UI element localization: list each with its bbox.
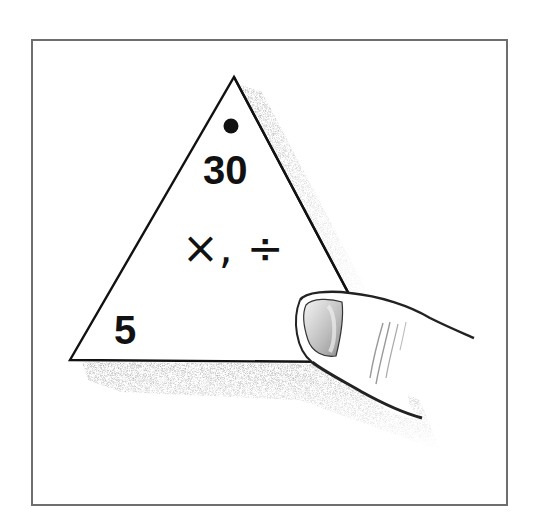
factor-value: 5: [114, 310, 136, 350]
product-dot-icon: [224, 119, 239, 134]
product-value: 30: [203, 150, 248, 190]
operations-label: ×, ÷: [182, 226, 284, 270]
